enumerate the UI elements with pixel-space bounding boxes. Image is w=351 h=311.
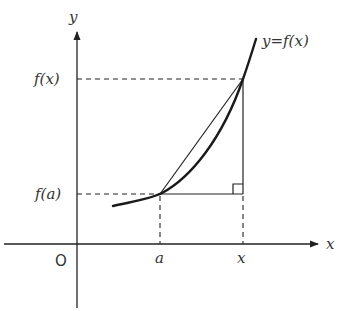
curve-label: y=f(x) (261, 32, 309, 50)
x-tick-label-x: x (237, 249, 246, 267)
x-tick-label-a: a (155, 249, 164, 267)
y-tick-label-fx: f(x) (33, 70, 60, 88)
function-curve (113, 39, 256, 206)
dashed-guides (77, 79, 243, 244)
right-angle-marker (233, 184, 243, 194)
secant-line (160, 79, 243, 194)
y-axis-label: y (68, 8, 78, 26)
x-axis-label: x (326, 235, 335, 253)
y-tick-label-fa: f(a) (34, 185, 61, 203)
diagram-canvas: y x O y=f(x) f(x) f(a) a x (0, 0, 351, 311)
origin-label: O (55, 252, 67, 270)
